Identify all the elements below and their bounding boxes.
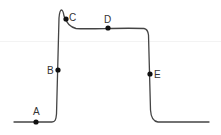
point-e-label: E bbox=[154, 69, 161, 80]
point-b-label: B bbox=[47, 65, 54, 76]
point-a-label: A bbox=[33, 106, 40, 117]
point-e-marker bbox=[147, 71, 152, 76]
point-c-label: C bbox=[69, 12, 76, 23]
point-c-marker bbox=[63, 16, 68, 21]
waveform-diagram: ABCDE bbox=[0, 0, 221, 135]
point-a-marker bbox=[33, 119, 38, 124]
waveform-canvas: ABCDE bbox=[0, 0, 221, 135]
waveform-curve bbox=[14, 10, 209, 122]
point-d-label: D bbox=[104, 14, 111, 25]
point-b-marker bbox=[55, 67, 60, 72]
point-d-marker bbox=[105, 25, 110, 30]
